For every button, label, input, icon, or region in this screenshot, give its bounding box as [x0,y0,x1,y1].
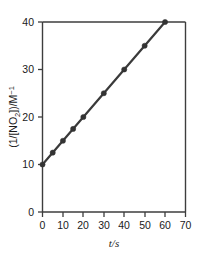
svg-text:(1/[NO2])/M−1: (1/[NO2])/M−1 [7,86,22,148]
x-tick-marks [43,212,186,217]
y-tick-labels: 0 10 20 30 40 [22,16,34,218]
data-point [71,126,76,131]
x-tick-label-10: 10 [57,219,69,231]
x-tick-label-70: 70 [180,219,192,231]
data-point [81,114,86,119]
y-axis-title-middle: ])/M [7,95,19,113]
y-tick-label-10: 10 [22,158,34,170]
data-point [101,91,106,96]
y-tick-label-0: 0 [28,206,34,218]
data-point [142,43,147,48]
y-tick-label-20: 20 [22,111,34,123]
x-tick-labels: 0 10 20 30 40 50 60 70 [40,219,192,231]
y-axis-title-prefix: (1/[NO [7,117,19,148]
y-tick-label-40: 40 [22,16,34,28]
data-point [60,138,65,143]
y-tick-label-30: 30 [22,63,34,75]
x-tick-label-30: 30 [98,219,110,231]
x-tick-label-0: 0 [40,219,46,231]
plot-frame [43,22,186,212]
x-axis-title: t/s [109,237,119,249]
y-axis-title-superscript: −1 [7,86,16,95]
x-tick-label-40: 40 [118,219,130,231]
y-axis-title: (1/[NO2])/M−1 [7,86,22,148]
x-tick-label-60: 60 [159,219,171,231]
kinetics-plot: 0 10 20 30 40 0 10 20 30 40 50 60 70 t/s… [0,0,205,255]
data-series-group [40,19,168,167]
data-point [122,67,127,72]
data-point [50,150,55,155]
figure-container: 0 10 20 30 40 0 10 20 30 40 50 60 70 t/s… [0,0,205,255]
x-tick-label-20: 20 [77,219,89,231]
data-point [40,162,45,167]
x-tick-label-50: 50 [139,219,151,231]
data-point [162,19,167,24]
